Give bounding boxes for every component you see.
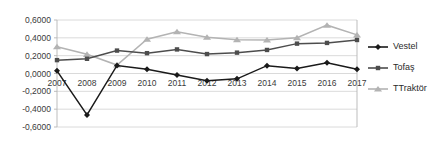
x-axis-tick-label: 2015	[288, 78, 307, 88]
data-point-marker	[295, 41, 299, 45]
series-line	[57, 63, 357, 115]
y-axis-tick-label: -0,4000	[22, 104, 51, 114]
y-axis-tick-label: -0,6000	[22, 122, 51, 132]
x-axis-tick-label: 2007	[48, 78, 67, 88]
legend-item-ttraktör[interactable]: TTraktör	[368, 83, 427, 93]
legend-label: Tofaş	[393, 62, 415, 72]
y-axis-tick-label: 0,2000	[25, 51, 51, 61]
chart-container: -0,6000-0,4000-0,20000,00000,20000,40000…	[0, 0, 446, 145]
x-axis-tick-label: 2017	[348, 78, 367, 88]
series-layer	[53, 22, 361, 118]
data-point-marker	[323, 22, 331, 28]
data-point-marker	[55, 58, 59, 62]
legend-item-tofaş[interactable]: Tofaş	[368, 62, 415, 72]
series-line	[57, 25, 357, 65]
data-point-marker	[115, 48, 119, 52]
data-point-marker	[354, 66, 360, 72]
data-point-marker	[85, 57, 89, 61]
data-point-marker	[376, 66, 380, 70]
data-point-marker	[53, 44, 61, 50]
x-axis-tick-label: 2011	[168, 78, 187, 88]
legend: VestelTofaşTTraktör	[368, 41, 427, 93]
data-point-marker	[145, 51, 149, 55]
series-ttraktör	[53, 22, 361, 67]
data-point-marker	[355, 38, 359, 42]
data-point-marker	[205, 52, 209, 56]
data-point-marker	[264, 63, 270, 69]
data-point-marker	[235, 50, 239, 54]
line-chart: -0,6000-0,4000-0,20000,00000,20000,40000…	[0, 0, 446, 145]
data-point-marker	[144, 66, 150, 72]
legend-label: Vestel	[393, 41, 418, 51]
data-point-marker	[175, 47, 179, 51]
data-point-marker	[324, 60, 330, 66]
x-axis-tick-label: 2016	[318, 78, 337, 88]
y-axis-tick-label: -0,2000	[22, 86, 51, 96]
x-axis-tick-label: 2014	[258, 78, 277, 88]
x-axis-tick-label: 2008	[78, 78, 97, 88]
data-point-marker	[294, 65, 300, 71]
x-axis-tick-label: 2010	[138, 78, 157, 88]
legend-item-vestel[interactable]: Vestel	[368, 41, 418, 51]
y-axis-tick-label: 0,6000	[25, 15, 51, 25]
data-point-marker	[265, 48, 269, 52]
y-axis-tick-label: 0,4000	[25, 33, 51, 43]
x-axis-tick-label: 2009	[108, 78, 127, 88]
data-point-marker	[375, 44, 381, 50]
legend-label: TTraktör	[393, 83, 427, 93]
y-axis-tick-labels: -0,6000-0,4000-0,20000,00000,20000,40000…	[22, 15, 51, 132]
data-point-marker	[325, 41, 329, 45]
series-line	[57, 40, 357, 60]
